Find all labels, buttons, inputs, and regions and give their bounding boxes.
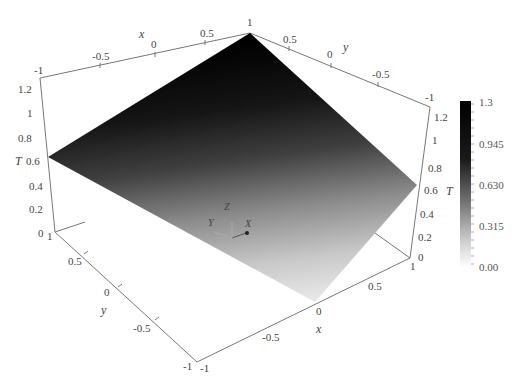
- svg-text:1: 1: [247, 16, 253, 28]
- svg-text:0.6: 0.6: [26, 155, 40, 167]
- svg-text:0.5: 0.5: [283, 33, 297, 45]
- svg-text:0.5: 0.5: [368, 280, 382, 292]
- svg-text:-0.5: -0.5: [92, 50, 110, 62]
- t-axis-left: 1.2 1 0.8 0.6 T 0.4 0.2 0: [15, 83, 44, 239]
- svg-text:0.6: 0.6: [424, 184, 438, 196]
- svg-text:0.630: 0.630: [479, 179, 504, 191]
- svg-text:0.8: 0.8: [18, 132, 32, 144]
- svg-text:1: 1: [47, 230, 53, 242]
- svg-text:Z: Z: [224, 201, 230, 212]
- svg-text:X: X: [244, 218, 252, 229]
- svg-text:0.5: 0.5: [200, 27, 214, 39]
- temperature-surface: [48, 33, 417, 302]
- surface-plot: -1 -0.5 0 0.5 1 x 0.5 0 y -0.5 -1 1.2 1 …: [0, 0, 515, 384]
- svg-text:0.4: 0.4: [420, 208, 434, 220]
- svg-text:T: T: [446, 184, 454, 198]
- svg-text:1: 1: [410, 260, 416, 272]
- svg-text:y: y: [342, 40, 349, 54]
- svg-text:0: 0: [104, 286, 110, 298]
- svg-text:0.945: 0.945: [479, 138, 504, 150]
- svg-text:0.2: 0.2: [418, 231, 432, 243]
- svg-text:0.4: 0.4: [29, 180, 43, 192]
- svg-text:1: 1: [432, 134, 438, 146]
- svg-text:T: T: [15, 154, 23, 168]
- svg-text:0.8: 0.8: [428, 162, 442, 174]
- svg-text:-1: -1: [34, 64, 43, 76]
- svg-text:1.2: 1.2: [18, 83, 32, 95]
- svg-text:-0.5: -0.5: [372, 68, 390, 80]
- svg-text:0: 0: [316, 305, 322, 317]
- colorbar: 1.3 0.945 0.630 0.315 0.00: [460, 96, 504, 273]
- svg-text:0: 0: [151, 38, 157, 50]
- y-axis-bottom: 1 0.5 0 y -0.5 -1: [47, 230, 192, 372]
- svg-text:-1: -1: [183, 360, 192, 372]
- svg-text:-1: -1: [425, 91, 434, 103]
- svg-text:-1: -1: [200, 362, 209, 374]
- svg-text:y: y: [100, 303, 107, 317]
- svg-text:0: 0: [327, 48, 333, 60]
- svg-text:0.315: 0.315: [479, 220, 504, 232]
- svg-text:1.2: 1.2: [434, 111, 448, 123]
- svg-text:1: 1: [27, 107, 33, 119]
- svg-text:-0.5: -0.5: [133, 322, 151, 334]
- svg-text:x: x: [315, 322, 322, 336]
- svg-text:-0.5: -0.5: [262, 331, 280, 343]
- svg-text:0: 0: [38, 227, 44, 239]
- svg-text:x: x: [138, 27, 145, 41]
- t-axis-right: 1.2 1 0.8 0.6 T 0.4 0.2 0: [418, 111, 454, 263]
- svg-text:0: 0: [418, 251, 424, 263]
- svg-text:0.5: 0.5: [68, 255, 82, 267]
- svg-text:1.3: 1.3: [479, 96, 493, 108]
- svg-text:0.2: 0.2: [29, 203, 43, 215]
- svg-text:0.00: 0.00: [479, 261, 499, 273]
